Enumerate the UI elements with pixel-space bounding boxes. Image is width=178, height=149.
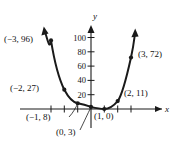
y-tick-label-40: 40 — [62, 76, 86, 85]
data-point-zero — [89, 105, 93, 109]
point-label-neg2: (−2, 27) — [10, 84, 39, 93]
point-label-one: (1, 0) — [94, 112, 114, 121]
y-tick-label-60: 60 — [62, 62, 86, 71]
data-point-three — [129, 55, 133, 59]
data-point-neg3 — [49, 38, 53, 42]
curve-right-arrow-icon — [131, 29, 138, 38]
x-axis-arrow-icon — [155, 106, 162, 112]
data-point-neg1 — [76, 101, 80, 105]
point-label-neg1: (−1, 8) — [26, 113, 51, 122]
function-curve — [46, 34, 135, 110]
curve-left-arrow-icon — [41, 27, 48, 36]
data-point-two — [116, 99, 120, 103]
point-label-zero: (0, 3) — [56, 128, 76, 137]
point-label-neg3: (−3, 96) — [4, 35, 33, 44]
x-axis-label: x — [165, 105, 169, 114]
leader-line-zero — [80, 108, 91, 130]
leader-line-neg1 — [69, 104, 78, 117]
point-label-three: (3, 72) — [138, 50, 162, 59]
y-tick-label-100: 100 — [62, 34, 86, 43]
y-tick-label-80: 80 — [62, 48, 86, 57]
point-label-two: (2, 11) — [124, 89, 148, 98]
y-axis-arrow-icon — [88, 25, 95, 33]
y-tick-label-20: 20 — [62, 91, 86, 100]
graph-figure: 100 80 60 40 20 y x (−3, 96) (−2, 27) (−… — [0, 0, 178, 149]
y-axis-label: y — [93, 12, 97, 21]
plot-canvas — [0, 0, 178, 149]
